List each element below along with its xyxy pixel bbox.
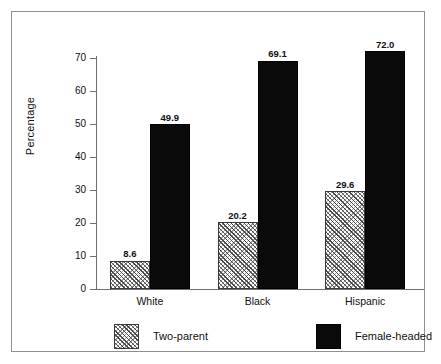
y-axis-tick-label-text: 70 bbox=[56, 53, 86, 63]
bar-value-label: 69.1 bbox=[268, 49, 287, 59]
legend-label: Two-parent bbox=[153, 331, 208, 342]
y-axis-tick-label: 20 bbox=[56, 218, 86, 228]
bar-value-label: 49.9 bbox=[161, 113, 180, 123]
y-axis-title: Percentage bbox=[24, 66, 36, 186]
bar-hispanic-two-parent: 29.6 bbox=[325, 191, 365, 289]
x-axis-line bbox=[96, 289, 424, 290]
legend-swatch-female-headed bbox=[316, 324, 341, 349]
legend: Two-parentFemale-headed bbox=[96, 324, 426, 354]
y-axis-tick-label-text: 40 bbox=[56, 152, 86, 162]
legend-item-female-headed[interactable]: Female-headed bbox=[316, 324, 432, 349]
y-axis-tick-label-text: 30 bbox=[56, 185, 86, 195]
bar-hispanic-female-headed: 72.0 bbox=[365, 51, 405, 289]
y-axis-tick-label-text: 20 bbox=[56, 218, 86, 228]
figure-frame: Percentage 010203040506070 8.649.920.269… bbox=[11, 11, 425, 352]
y-axis-tick-label-text: 60 bbox=[56, 86, 86, 96]
legend-item-two-parent[interactable]: Two-parent bbox=[114, 324, 208, 349]
plot-area: 8.649.920.269.129.672.0 bbox=[96, 58, 419, 289]
bar-white-female-headed: 49.9 bbox=[150, 124, 190, 289]
bar-value-label: 72.0 bbox=[376, 40, 395, 50]
y-axis-tick-label: 70 bbox=[56, 53, 86, 63]
bar-value-label: 8.6 bbox=[123, 249, 136, 259]
x-axis-label-hispanic: Hispanic bbox=[315, 296, 415, 307]
y-axis-tick-label: 10 bbox=[56, 251, 86, 261]
y-axis-tick-label-text: 0 bbox=[56, 284, 86, 294]
y-axis-tick-label: 40 bbox=[56, 152, 86, 162]
y-axis-tick-label-text: 10 bbox=[56, 251, 86, 261]
y-axis-tick-label-text: 50 bbox=[56, 119, 86, 129]
y-axis-tick bbox=[90, 289, 96, 290]
legend-swatch-two-parent bbox=[114, 324, 139, 349]
x-axis-label-black: Black bbox=[208, 296, 308, 307]
x-axis-label-white: White bbox=[100, 296, 200, 307]
bar-white-two-parent: 8.6 bbox=[110, 261, 150, 289]
y-axis-tick-label: 60 bbox=[56, 86, 86, 96]
y-axis-tick-label: 30 bbox=[56, 185, 86, 195]
bar-value-label: 29.6 bbox=[336, 180, 355, 190]
y-axis-tick-label: 50 bbox=[56, 119, 86, 129]
bar-value-label: 20.2 bbox=[228, 211, 247, 221]
bar-black-female-headed: 69.1 bbox=[258, 61, 298, 289]
bar-black-two-parent: 20.2 bbox=[218, 222, 258, 289]
y-axis-tick-label: 0 bbox=[56, 284, 86, 294]
legend-label: Female-headed bbox=[355, 331, 432, 342]
